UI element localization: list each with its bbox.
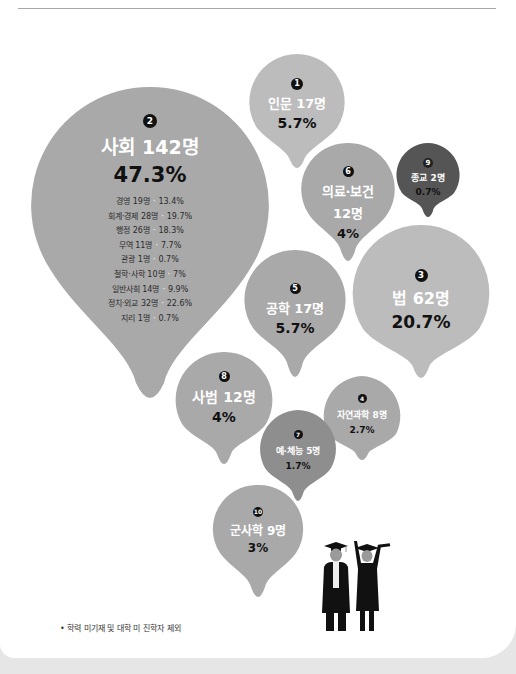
breakdown-row: 회계·경제 28명·19.7% bbox=[32, 210, 268, 225]
breakdown-row: 무역 11명·7.7% bbox=[32, 239, 268, 254]
bubble-percent: 47.3% bbox=[32, 163, 268, 187]
breakdown-row: 정치·외교 32명·22.6% bbox=[32, 297, 268, 312]
bubble-percent: 3% bbox=[214, 541, 302, 555]
rank-badge: 4 bbox=[358, 394, 367, 403]
rank-badge: 5 bbox=[290, 283, 301, 294]
bubble-label-line2: 12명 bbox=[302, 203, 394, 222]
graduates-illustration bbox=[322, 541, 402, 637]
breakdown-row: 관광 1명·0.7% bbox=[32, 253, 268, 268]
rank-badge: 6 bbox=[343, 166, 354, 177]
breakdown-row: 경영 19명·13.4% bbox=[32, 195, 268, 210]
bubble-percent: 1.7% bbox=[259, 461, 337, 471]
rank-badge: 2 bbox=[143, 114, 157, 128]
bubble-label: 사범 12명 bbox=[176, 386, 272, 406]
rank-badge: 7 bbox=[294, 430, 303, 439]
rank-badge: 3 bbox=[415, 269, 428, 282]
bubble-label: 법 62명 bbox=[353, 285, 489, 309]
rank-badge: 9 bbox=[423, 158, 433, 168]
breakdown-list: 경영 19명·13.4% 회계·경제 28명·19.7% 행정 26명·18.3… bbox=[32, 195, 268, 326]
bubble-label-line1: 의료·보건 bbox=[302, 181, 394, 200]
footnote: • 학력 미기재 및 대학 미 진학자 제외 bbox=[60, 622, 181, 633]
breakdown-row: 행정 26명·18.3% bbox=[32, 224, 268, 239]
bubble-percent: 5.7% bbox=[249, 115, 345, 131]
bubble-religion: 9 종교 2명 0.7% bbox=[396, 143, 460, 221]
breakdown-row: 철학·사학 10명·7% bbox=[32, 268, 268, 283]
rank-badge: 1 bbox=[291, 78, 303, 90]
bubble-percent: 5.7% bbox=[245, 320, 345, 336]
bubble-label: 군사학 9명 bbox=[214, 521, 302, 538]
bubble-label: 공학 17명 bbox=[245, 298, 345, 317]
breakdown-row: 일반사회 14명·9.9% bbox=[32, 283, 268, 298]
rank-badge: 10 bbox=[253, 507, 263, 517]
bubble-percent: 20.7% bbox=[353, 312, 489, 332]
infographic-card: 2 사회 142명 47.3% 경영 19명·13.4% 회계·경제 28명·1… bbox=[0, 0, 516, 658]
graduates-icon bbox=[322, 541, 402, 633]
bubble-label: 사회 142명 bbox=[32, 132, 268, 159]
breakdown-row: 지리 1명·0.7% bbox=[32, 312, 268, 327]
bubble-percent: 0.7% bbox=[396, 187, 460, 197]
bubble-law: 3 법 62명 20.7% bbox=[353, 225, 489, 385]
bubble-percent: 4% bbox=[176, 409, 272, 425]
bubble-label: 종교 2명 bbox=[396, 171, 460, 184]
top-divider bbox=[18, 8, 496, 9]
bubble-label: 인문 17명 bbox=[249, 93, 345, 112]
bubble-education: 8 사범 12명 4% bbox=[176, 352, 272, 470]
bubble-military: 10 군사학 9명 3% bbox=[214, 485, 302, 603]
bubble-label: 예·체능 5명 bbox=[259, 444, 337, 457]
rank-badge: 8 bbox=[219, 371, 230, 382]
